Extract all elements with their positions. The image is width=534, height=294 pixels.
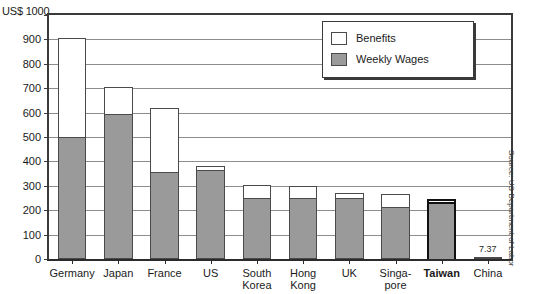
- x-axis-label: South Korea: [242, 267, 271, 291]
- x-axis-label: Hong Kong: [290, 267, 316, 291]
- x-axis-label: Taiwan: [423, 267, 459, 279]
- bar-group[interactable]: [381, 194, 410, 259]
- y-axis-label: 700: [23, 83, 41, 94]
- legend-swatch-weekly-wages: [331, 53, 347, 66]
- bar-segment-weekly-wages[interactable]: [335, 198, 364, 259]
- bar-segment-weekly-wages[interactable]: [243, 198, 272, 259]
- bar-group[interactable]: [289, 186, 318, 259]
- y-axis-label: 800: [23, 58, 41, 69]
- y-axis-tick: [44, 259, 49, 260]
- legend-label-weekly-wages: Weekly Wages: [356, 54, 429, 65]
- y-axis-label: 200: [23, 205, 41, 216]
- chart-root: US$ 1000 0100200300400500600700800900 Ge…: [0, 0, 534, 294]
- bar-group[interactable]: [243, 185, 272, 259]
- x-axis-label: UK: [342, 267, 357, 279]
- x-axis-tick: [257, 259, 258, 264]
- bar-group[interactable]: [196, 166, 225, 259]
- bar-group[interactable]: [335, 193, 364, 259]
- bar-group[interactable]: [58, 38, 87, 259]
- bar-segment-weekly-wages[interactable]: [58, 137, 87, 259]
- y-axis-label: 0: [35, 254, 41, 265]
- bar-segment-weekly-wages[interactable]: [196, 170, 225, 259]
- x-axis-tick: [488, 259, 489, 264]
- x-axis-tick: [72, 259, 73, 264]
- y-axis-label: 500: [23, 132, 41, 143]
- source-note: Source: US Department of Labor: [507, 150, 515, 267]
- x-axis-label: France: [147, 267, 181, 279]
- y-axis-label: 900: [23, 34, 41, 45]
- bar-segment-weekly-wages[interactable]: [381, 207, 410, 259]
- legend-item-weekly-wages: Weekly Wages: [331, 49, 465, 70]
- x-axis-tick: [349, 259, 350, 264]
- x-axis-label: Singa- pore: [380, 267, 412, 291]
- y-axis-label: 100: [23, 229, 41, 240]
- y-axis-label: 600: [23, 107, 41, 118]
- y-axis-label: 400: [23, 156, 41, 167]
- bar-segment-weekly-wages[interactable]: [150, 172, 179, 259]
- x-axis-label: Japan: [103, 267, 133, 279]
- legend-item-benefits: Benefits: [331, 28, 465, 49]
- legend-label-benefits: Benefits: [356, 33, 396, 44]
- y-axis-title: US$ 1000: [2, 6, 49, 17]
- x-axis-tick: [165, 259, 166, 264]
- bar-group[interactable]: [427, 199, 456, 259]
- bar-value-label: 7.37: [479, 245, 497, 254]
- bar-segment-weekly-wages[interactable]: [104, 114, 133, 259]
- x-axis-tick: [211, 259, 212, 264]
- legend-swatch-benefits: [331, 32, 347, 45]
- x-axis-tick: [118, 259, 119, 264]
- bar-segment-weekly-wages[interactable]: [289, 198, 318, 259]
- bar-group[interactable]: [104, 87, 133, 259]
- x-axis-tick: [303, 259, 304, 264]
- x-axis-label: Germany: [49, 267, 94, 279]
- x-axis-tick: [396, 259, 397, 264]
- chart-legend: Benefits Weekly Wages: [322, 21, 474, 78]
- bar-segment-weekly-wages[interactable]: [427, 202, 456, 259]
- x-axis-tick: [442, 259, 443, 264]
- y-axis-label: 300: [23, 180, 41, 191]
- x-axis-label: China: [474, 267, 503, 279]
- bar-group[interactable]: [150, 108, 179, 259]
- x-axis-label: US: [203, 267, 218, 279]
